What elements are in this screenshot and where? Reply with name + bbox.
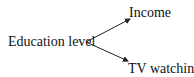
arrow-to-tv-watching <box>86 42 128 61</box>
arrow-to-income <box>86 19 130 42</box>
arrows <box>0 0 194 77</box>
